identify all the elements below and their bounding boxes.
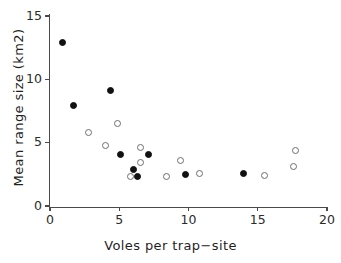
data-point-open xyxy=(137,159,144,166)
data-point-open xyxy=(177,157,184,164)
x-tick-label: 0 xyxy=(35,214,65,227)
scatter-plot-figure: 051015 05101520 Voles per trap−site Mean… xyxy=(0,0,341,263)
data-point-filled xyxy=(59,39,66,46)
plot-data-area xyxy=(50,16,327,206)
y-tick-mark xyxy=(45,15,49,16)
x-tick-mark xyxy=(119,207,120,211)
data-point-filled xyxy=(145,151,152,158)
data-point-open xyxy=(292,147,299,154)
data-point-open xyxy=(102,142,109,149)
data-point-filled xyxy=(130,166,137,173)
data-point-open xyxy=(196,170,203,177)
x-tick-label: 15 xyxy=(243,214,273,227)
y-axis-label: Mean range size (km2) xyxy=(11,18,26,198)
x-tick-mark xyxy=(326,207,327,211)
x-axis-label: Voles per trap−site xyxy=(0,238,341,253)
data-point-filled xyxy=(117,151,124,158)
x-tick-label: 20 xyxy=(312,214,341,227)
x-tick-mark xyxy=(257,207,258,211)
x-tick-label: 10 xyxy=(174,214,204,227)
data-point-open xyxy=(137,144,144,151)
clipped-title-text xyxy=(60,0,220,4)
x-tick-mark xyxy=(188,207,189,211)
y-tick-mark xyxy=(45,142,49,143)
data-point-filled xyxy=(182,171,189,178)
y-tick-label: 0 xyxy=(16,200,42,213)
y-tick-mark xyxy=(45,79,49,80)
x-tick-mark xyxy=(49,207,50,211)
x-tick-label: 5 xyxy=(104,214,134,227)
data-point-filled xyxy=(240,170,247,177)
